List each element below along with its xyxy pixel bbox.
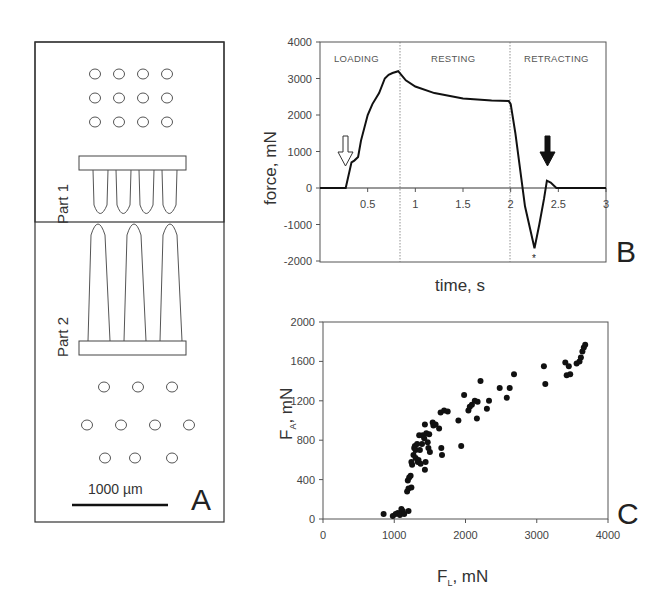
hole — [116, 420, 127, 430]
data-point — [497, 385, 503, 391]
hole — [138, 93, 149, 103]
data-point — [541, 363, 547, 369]
data-point — [486, 398, 492, 404]
xlabel-unit: , mN — [452, 567, 488, 586]
hole — [167, 453, 178, 463]
data-point — [445, 409, 451, 415]
data-point — [475, 399, 481, 405]
data-point — [425, 439, 431, 445]
finger-part1 — [162, 170, 177, 214]
ylabel-unit: , mN — [277, 388, 296, 424]
ylabel-main: F — [277, 430, 296, 440]
hole — [138, 69, 149, 79]
panel-a-border — [35, 42, 224, 522]
part2-label: Part 2 — [54, 317, 71, 357]
data-point — [461, 392, 467, 398]
phase-label-loading: LOADING — [334, 53, 379, 64]
y-tick-label: 400 — [297, 474, 315, 486]
filled-arrow-down-icon — [540, 136, 555, 166]
x-tick-label: 2000 — [453, 529, 477, 541]
chart-b-xlabel: time, s — [435, 276, 485, 295]
hole — [114, 69, 125, 79]
part1-fingers — [93, 170, 177, 214]
y-tick-label: 0 — [309, 513, 315, 525]
data-point — [458, 443, 464, 449]
hole — [99, 382, 110, 392]
chart-c-x-ticks: 01000200030004000 — [320, 519, 620, 541]
y-tick-label: 1000 — [288, 146, 312, 158]
x-tick-label: 2 — [508, 198, 514, 210]
phase-label-resting: RESTING — [431, 53, 475, 64]
data-point — [484, 406, 490, 412]
x-tick-label: 1000 — [382, 529, 406, 541]
hole — [90, 69, 101, 79]
hole — [90, 93, 101, 103]
hole — [114, 117, 125, 127]
finger-part1 — [116, 170, 131, 214]
phase-label-retracting: RETRACTING — [524, 53, 589, 64]
finger-part1 — [139, 170, 154, 214]
panel-b-letter: B — [616, 235, 636, 268]
panel-a-letter: A — [191, 483, 211, 516]
chart-c-frame — [323, 322, 608, 519]
hole — [100, 453, 111, 463]
data-point — [566, 363, 572, 369]
data-point — [423, 459, 429, 465]
part1-label: Part 1 — [54, 184, 71, 224]
minimum-star-marker: * — [532, 253, 536, 264]
open-arrow-down-icon — [338, 136, 353, 166]
data-point — [504, 395, 510, 401]
chart-b-ylabel: force, mN — [261, 131, 280, 205]
data-point — [408, 485, 414, 491]
part2-fingers — [88, 224, 182, 341]
top-hole-grid — [90, 69, 173, 127]
x-tick-label: 3000 — [525, 529, 549, 541]
data-point — [381, 511, 387, 517]
y-tick-label: -1000 — [284, 219, 312, 231]
hole — [162, 69, 173, 79]
data-point — [422, 421, 428, 427]
panel-c-letter: C — [617, 497, 639, 530]
data-point — [426, 431, 432, 437]
data-point — [408, 473, 414, 479]
hole — [167, 382, 178, 392]
chart-b-frame — [320, 42, 606, 262]
hole — [130, 453, 141, 463]
y-tick-label: 2000 — [291, 316, 315, 328]
x-tick-label: 0 — [320, 529, 326, 541]
chart-c-ylabel: FA, mN — [277, 388, 298, 440]
x-tick-label: 2.5 — [551, 198, 566, 210]
data-point — [582, 342, 588, 348]
finger-part2 — [124, 224, 146, 341]
panel-b: 40003000200010000-1000-2000 0.511.522.53… — [261, 36, 636, 295]
y-tick-label: 4000 — [288, 36, 312, 48]
data-point — [474, 416, 480, 422]
data-point — [438, 445, 444, 451]
panel-a: Part 1 Part 2 1000 µm A — [35, 42, 224, 522]
data-point — [478, 378, 484, 384]
finger-part1 — [93, 170, 108, 214]
chart-b-y-ticks: 40003000200010000-1000-2000 — [284, 36, 320, 267]
bottom-hole-grid — [82, 382, 195, 463]
data-point — [419, 441, 425, 447]
finger-part2 — [160, 224, 182, 341]
finger-part2 — [88, 224, 110, 341]
bottom-bar-part2 — [79, 341, 186, 355]
data-point — [417, 447, 423, 453]
x-tick-label: 4000 — [596, 529, 620, 541]
data-point — [578, 355, 584, 361]
data-point — [436, 425, 442, 431]
hole — [150, 420, 161, 430]
data-point — [406, 508, 412, 514]
y-tick-label: 3000 — [288, 73, 312, 85]
chart-b-x-ticks: 0.511.522.53 — [360, 188, 609, 210]
top-bar-part1 — [79, 156, 186, 170]
hole — [82, 420, 93, 430]
hole — [114, 93, 125, 103]
data-point — [542, 381, 548, 387]
figure-canvas: Part 1 Part 2 1000 µm A 4000300020001000… — [0, 0, 672, 608]
hole — [184, 420, 195, 430]
force-curve — [320, 71, 606, 248]
x-tick-label: 1.5 — [455, 198, 470, 210]
hole — [162, 117, 173, 127]
